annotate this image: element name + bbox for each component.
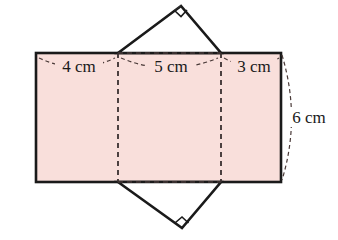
top-triangle-face: [118, 6, 221, 53]
dimension-label-left: 4 cm: [62, 57, 96, 76]
dimension-label-height: 6 cm: [292, 108, 326, 127]
net-diagram: 4 cm 5 cm 3 cm 6 cm: [0, 0, 338, 240]
bottom-triangle-face: [118, 182, 221, 228]
dimension-label-right: 3 cm: [237, 57, 271, 76]
dimension-label-middle: 5 cm: [154, 57, 188, 76]
